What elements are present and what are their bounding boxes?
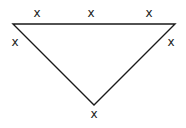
mark-right: x bbox=[167, 35, 174, 49]
mark-bottom: x bbox=[90, 107, 97, 121]
triangle-outline bbox=[13, 24, 175, 105]
mark-left: x bbox=[11, 35, 18, 49]
mark-top-1: x bbox=[33, 6, 40, 20]
triangle-diagram: x x x x x x bbox=[0, 0, 186, 128]
mark-top-3: x bbox=[145, 6, 152, 20]
mark-top-2: x bbox=[87, 6, 94, 20]
